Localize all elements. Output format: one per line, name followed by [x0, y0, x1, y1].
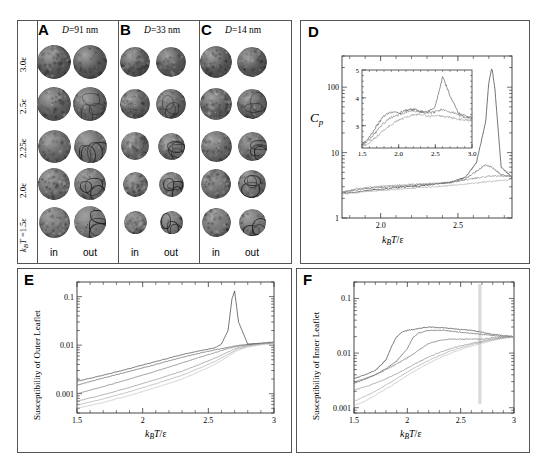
panel-E-plot: 1.522.530.0010.010.1 — [17, 268, 292, 453]
vesicle-snapshot — [120, 47, 150, 77]
vesicle-snapshot — [38, 130, 71, 163]
panel-D-plot: 2.02.51101001.52.02.53.0345 — [300, 20, 530, 264]
x-tick-label: 2 — [141, 416, 145, 425]
vesicle-snapshot — [73, 87, 107, 121]
vesicle-snapshot — [121, 132, 149, 160]
vesicle-snapshot — [73, 45, 107, 79]
x-tick-label: 2 — [405, 416, 409, 425]
y-tick-label: 0.001 — [56, 390, 74, 399]
vesicle-shading — [120, 89, 150, 119]
grid-divider — [118, 21, 119, 263]
header-diameter-C: D=14 nm — [225, 25, 261, 35]
vesicle-shading — [160, 211, 183, 234]
data-series-line — [354, 327, 514, 379]
y-tick-label: 0.1 — [64, 293, 74, 302]
panel-letter-C: C — [201, 22, 212, 37]
y-tick-label: 10 — [331, 149, 339, 158]
vesicle-snapshot — [202, 208, 231, 237]
vesicle-snapshot — [159, 172, 184, 197]
vesicle-snapshot — [37, 87, 71, 121]
vesicle-shading — [156, 47, 186, 77]
x-tick-label: 2.5 — [453, 221, 463, 230]
inset-x-tick: 2.5 — [431, 150, 440, 158]
vesicle-shading — [200, 88, 232, 120]
panel-E-xlabel: kBT/ε — [145, 428, 167, 441]
vesicle-snapshot — [74, 206, 106, 238]
vesicle-shading — [74, 206, 106, 238]
vesicle-snapshot — [237, 89, 267, 119]
io-label-out-B: out — [157, 247, 185, 258]
vesicle-shading — [37, 87, 71, 121]
vesicle-snapshot — [200, 46, 232, 78]
header-diameter-B: D=33 nm — [144, 25, 180, 35]
vesicle-shading — [202, 208, 231, 237]
scan-artifact — [478, 284, 481, 404]
inset-x-tick: 3.0 — [468, 150, 477, 158]
inset-y-tick: 3 — [356, 123, 360, 131]
panel-F-plot: 1.522.530.0010.010.1 — [296, 268, 530, 453]
panel-letter-A: A — [38, 22, 49, 37]
data-series-line — [77, 291, 274, 381]
vesicle-shading — [239, 209, 266, 236]
y-tick-label: 0.01 — [337, 349, 351, 358]
data-series-line — [354, 336, 514, 401]
vesicle-shading — [74, 168, 106, 200]
vesicle-snapshot — [156, 89, 186, 119]
data-series-line — [77, 343, 274, 408]
vesicle-shading — [74, 130, 107, 163]
io-label-in-B: in — [123, 247, 147, 258]
vesicle-snapshot — [120, 89, 150, 119]
vesicle-snapshot — [37, 45, 71, 79]
vesicle-snapshot — [74, 168, 106, 200]
vesicle-shading — [201, 169, 231, 199]
io-label-out-A: out — [76, 247, 104, 258]
vesicle-shading — [38, 168, 70, 200]
vesicle-shading — [238, 132, 267, 161]
x-tick-label: 3 — [272, 416, 276, 425]
vesicle-shading — [238, 170, 266, 198]
row-label-2.5e: 2.5ε — [18, 85, 38, 127]
vesicle-snapshot — [123, 172, 148, 197]
vesicle-shading — [200, 46, 232, 78]
data-series-line — [77, 342, 274, 394]
vesicle-snapshot — [238, 132, 267, 161]
vesicle-shading — [159, 172, 184, 197]
io-label-in-A: in — [42, 247, 66, 258]
data-series-line — [342, 175, 512, 192]
vesicle-snapshot — [201, 169, 231, 199]
vesicle-shading — [73, 45, 107, 79]
y-tick-label: 100 — [327, 83, 339, 92]
x-tick-label: 1.5 — [349, 416, 359, 425]
inset-x-tick: 2.0 — [394, 150, 403, 158]
vesicle-shading — [201, 131, 232, 162]
vesicle-snapshot — [74, 130, 107, 163]
vesicle-snapshot — [39, 207, 70, 238]
x-tick-label: 2.5 — [203, 416, 213, 425]
vesicle-shading — [237, 47, 267, 77]
vesicle-shading — [237, 89, 267, 119]
y-tick-label: 0.01 — [60, 341, 74, 350]
row-label-kbt-1.5e: kBT =1.5ε — [18, 207, 38, 263]
x-tick-label: 1.5 — [72, 416, 82, 425]
data-series-line — [77, 343, 274, 386]
vesicle-shading — [156, 89, 186, 119]
x-tick-label: 2.5 — [456, 416, 466, 425]
y-tick-label: 1 — [335, 214, 339, 223]
vesicle-snapshot — [200, 88, 232, 120]
y-tick-label: 0.001 — [333, 404, 351, 413]
vesicle-shading — [124, 211, 147, 234]
header-diameter-A: D=91 nm — [62, 25, 98, 35]
vesicle-snapshot — [124, 211, 147, 234]
data-series-line — [354, 337, 514, 406]
panel-F-xlabel: kBT/ε — [400, 428, 422, 441]
data-series-line — [354, 330, 514, 383]
vesicle-shading — [120, 47, 150, 77]
row-label-2.0e: 2.0ε — [18, 169, 38, 211]
inset-y-tick: 5 — [356, 67, 360, 75]
panel-D-xlabel: kBT/ε — [382, 234, 404, 247]
row-label-column: 3.0ε 2.5ε 2.25ε 2.0ε kBT =1.5ε — [18, 21, 38, 263]
figure-root: 3.0ε 2.5ε 2.25ε 2.0ε kBT =1.5ε A D=91 nm… — [0, 0, 538, 461]
vesicle-shading — [39, 207, 70, 238]
x-tick-label: 2.0 — [376, 221, 386, 230]
vesicle-snapshot — [158, 133, 185, 160]
